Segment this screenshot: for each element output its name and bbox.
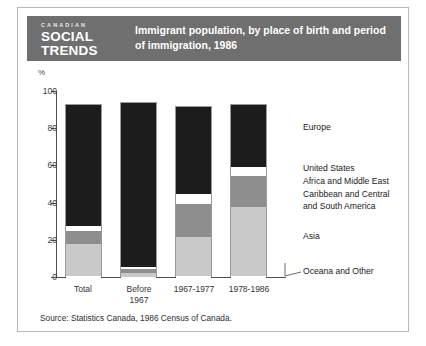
y-tick-label-20: 20 — [33, 235, 57, 245]
segment-oceana — [176, 276, 211, 278]
legend-label-africa-middle-east: Africa and Middle East — [303, 176, 389, 188]
legend-label-europe: Europe — [303, 122, 331, 134]
y-tick-100: 100 — [18, 91, 57, 92]
y-axis-label: % — [38, 68, 45, 77]
y-axis-line — [56, 91, 57, 278]
segment-oceana — [66, 276, 101, 278]
source-note: Source: Statistics Canada, 1986 Census o… — [40, 313, 232, 323]
y-tick-0: 0 — [18, 277, 57, 278]
segment-united-states — [231, 167, 266, 176]
segment-europe — [231, 105, 266, 167]
segment-oceana — [231, 276, 266, 278]
y-tick-80: 80 — [18, 128, 57, 129]
x-label-1978-1986: 1978-1986 — [214, 284, 284, 295]
y-tick-20: 20 — [18, 240, 57, 241]
bar-1978-1986[interactable] — [230, 104, 267, 277]
y-tick-60: 60 — [18, 165, 57, 166]
segment-united-states — [176, 194, 211, 204]
legend-label-oceana: Oceana and Other — [303, 266, 374, 278]
y-tick-label-60: 60 — [33, 160, 57, 170]
segment-europe — [176, 107, 211, 194]
bar-total[interactable] — [65, 104, 102, 277]
legend-label-caribbean: Caribbean and Central and South America — [303, 189, 389, 212]
y-tick-40: 40 — [18, 203, 57, 204]
segment-oceana — [121, 277, 156, 278]
y-tick-label-80: 80 — [33, 123, 57, 133]
legend-label-united-states: United States — [303, 163, 355, 175]
bar-1967-1977[interactable] — [175, 106, 212, 277]
segment-europe — [121, 103, 156, 267]
segment-asia — [231, 207, 266, 276]
segment-caribbean — [176, 204, 211, 237]
figure-panel: CANADIAN SOCIAL TRENDS Immigrant populat… — [17, 7, 409, 332]
y-tick-label-0: 0 — [33, 272, 57, 282]
segment-asia — [176, 237, 211, 276]
segment-europe — [66, 105, 101, 226]
segment-caribbean — [66, 231, 101, 244]
segment-asia — [66, 244, 101, 276]
plot-area: % 100 80 60 40 20 0 — [18, 8, 409, 332]
y-tick-label-40: 40 — [33, 198, 57, 208]
legend-label-asia: Asia — [303, 231, 320, 243]
leader-line-icon — [284, 263, 302, 277]
segment-caribbean — [231, 176, 266, 207]
bar-before-1967[interactable] — [120, 102, 157, 277]
y-tick-label-100: 100 — [33, 86, 57, 96]
